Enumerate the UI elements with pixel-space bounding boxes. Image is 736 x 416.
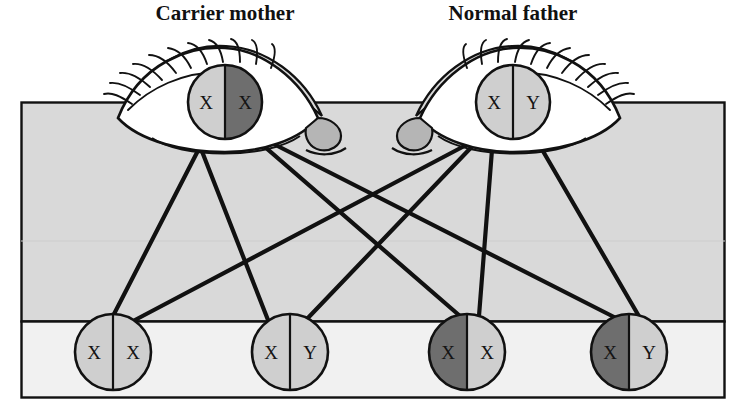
father-allele-left-label: X <box>487 92 501 113</box>
child-4-allele-right-label: Y <box>642 342 656 363</box>
child-4-genotype-circle: X Y <box>591 314 667 390</box>
child-4-allele-left-label: X <box>603 342 617 363</box>
child-3-genotype-circle: X X <box>429 314 505 390</box>
mother-allele-right-label: X <box>238 92 252 113</box>
pedigree-figure: X X <box>0 0 736 416</box>
mother-allele-left-label: X <box>199 92 213 113</box>
mother-genotype-circle: X X <box>188 65 262 139</box>
child-1-allele-right-label: X <box>126 342 140 363</box>
child-3-allele-left-label: X <box>441 342 455 363</box>
father-label: Normal father <box>449 1 578 25</box>
child-1-allele-left-label: X <box>87 342 101 363</box>
diagram-canvas: X X <box>0 0 736 416</box>
child-2-allele-right-label: Y <box>303 342 317 363</box>
child-2-allele-left-label: X <box>264 342 278 363</box>
father-genotype-circle: X Y <box>476 65 550 139</box>
child-2-genotype-circle: X Y <box>252 314 328 390</box>
child-1-genotype-circle: X X <box>75 314 151 390</box>
child-3-allele-right-label: X <box>480 342 494 363</box>
father-allele-right-label: Y <box>526 92 540 113</box>
mother-label: Carrier mother <box>156 1 295 25</box>
